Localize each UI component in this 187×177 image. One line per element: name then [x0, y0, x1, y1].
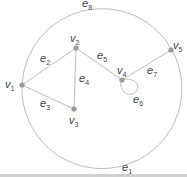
bottom-divider [0, 174, 187, 177]
label-e5: e5 [97, 49, 107, 63]
label-e2: e2 [40, 52, 50, 66]
label-e4: e4 [79, 72, 89, 86]
graph-diagram: v1 v2 v3 v4 v5 e1 e2 e3 e4 e5 e6 e7 e8 [0, 0, 187, 177]
edge-e4 [74, 48, 76, 109]
vertex-v3 [71, 106, 76, 111]
vertex-v4 [119, 77, 124, 82]
vertex-v1 [19, 82, 24, 87]
label-e8: e8 [82, 0, 92, 11]
label-v5: v5 [173, 39, 183, 53]
label-v2: v2 [70, 32, 80, 46]
label-e3: e3 [40, 97, 50, 111]
label-v4: v4 [117, 64, 127, 78]
label-v3: v3 [69, 114, 79, 128]
label-v1: v1 [5, 78, 15, 92]
label-e7: e7 [147, 64, 157, 78]
vertex-v2 [73, 45, 78, 50]
label-e6: e6 [133, 93, 143, 107]
